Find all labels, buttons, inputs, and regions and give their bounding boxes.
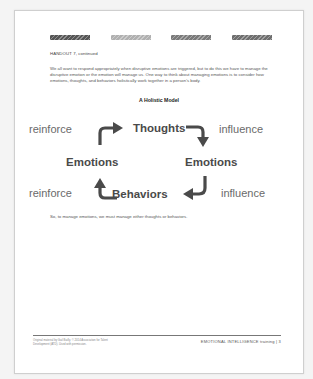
node-behaviors: Behaviors xyxy=(112,189,168,201)
verb-top-left: reinforce xyxy=(29,124,72,135)
model-title: A Holistic Model xyxy=(15,97,303,103)
color-bar-2 xyxy=(111,35,151,40)
arrow-right-down-icon xyxy=(186,124,212,148)
intro-paragraph: We all want to respond appropriately whe… xyxy=(50,66,275,84)
verb-bottom-right: influence xyxy=(221,188,265,199)
footer-credit: Original material by Gail Bailly. © 2014… xyxy=(33,339,113,346)
document-page: HANDOUT 7, continued We all want to resp… xyxy=(14,10,304,374)
arrow-up-right-icon xyxy=(96,122,124,146)
node-emotions-left: Emotions xyxy=(66,157,118,169)
footer-title-page: EMOTIONAL INTELLIGENCE training | 3 xyxy=(165,339,281,344)
footer-divider xyxy=(33,335,281,336)
node-thoughts: Thoughts xyxy=(133,123,185,135)
verb-bottom-left: reinforce xyxy=(29,188,72,199)
arrow-left-up-icon xyxy=(91,177,117,203)
color-bar-4 xyxy=(232,35,272,40)
handout-label: HANDOUT 7, continued xyxy=(50,51,98,56)
color-bar-1 xyxy=(50,35,90,40)
verb-top-right: influence xyxy=(219,124,263,135)
header-color-bars xyxy=(50,35,272,41)
conclusion-paragraph: So, to manage emotions, we must manage e… xyxy=(50,214,187,219)
color-bar-3 xyxy=(171,35,211,40)
node-emotions-right: Emotions xyxy=(185,157,237,169)
arrow-down-left-icon xyxy=(183,176,211,202)
